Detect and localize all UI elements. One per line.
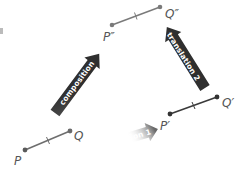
- label-p-prime: P′: [160, 119, 170, 133]
- point-q-double-prime: [158, 5, 163, 10]
- label-q-double-prime: Q″: [165, 7, 179, 21]
- arrow-label-composition: composition: [58, 59, 97, 107]
- label-q-prime: Q′: [222, 96, 234, 110]
- point-p-prime: [168, 112, 173, 117]
- label-p-double-prime: P″: [103, 30, 115, 44]
- arrow-translation-1: translation 1: [85, 120, 160, 159]
- arrow-translation-2-body: translation 2: [159, 22, 213, 93]
- point-p: [23, 148, 28, 153]
- point-p-double-prime: [110, 23, 115, 28]
- point-q: [68, 129, 73, 134]
- arrow-label-translation-2: translation 2: [165, 31, 202, 83]
- arrow-composition: composition: [47, 48, 106, 119]
- segment-p-prime-q-prime: P′ Q′: [160, 95, 234, 133]
- point-q-prime: [215, 95, 220, 100]
- label-q: Q: [74, 129, 83, 143]
- label-p: P: [14, 154, 22, 168]
- translation-composition-diagram: P Q P′ Q′ P″ Q″ translation 1 translatio…: [0, 0, 243, 175]
- segment-pq: P Q: [14, 129, 83, 168]
